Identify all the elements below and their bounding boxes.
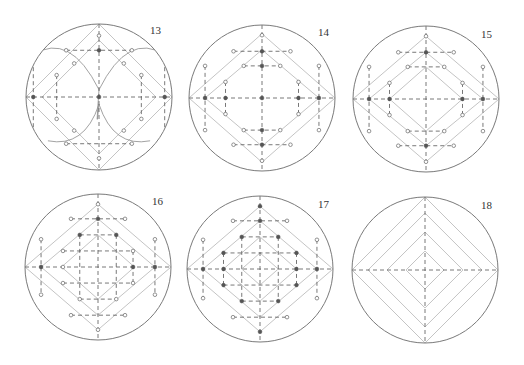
open-dot [388,81,392,85]
filled-dot [201,267,205,271]
open-dot [122,129,126,133]
open-dot [130,48,134,52]
open-dot [96,202,100,206]
open-dot [260,33,264,37]
open-dot [388,113,392,117]
filled-dot [153,265,157,269]
panel-content [189,25,335,171]
open-dot [367,129,371,133]
panel-17 [187,196,333,342]
open-dot [96,328,100,332]
filled-dot [97,48,101,52]
filled-dot [461,97,465,101]
filled-dot [295,251,299,255]
filled-dot [260,143,264,147]
open-dot [278,64,282,68]
filled-dot [163,95,167,99]
filled-dot [295,267,299,271]
open-dot [163,51,167,55]
open-dot [231,219,235,223]
open-dot [424,34,428,38]
open-dot [201,296,205,300]
open-dot [461,113,465,117]
open-dot [114,297,118,301]
open-dot [260,159,264,163]
filled-dot [424,144,428,148]
open-dot [130,142,134,146]
filled-dot [78,233,82,237]
open-dot [232,49,236,53]
filled-dot [39,265,43,269]
open-dot [317,128,321,132]
filled-dot [222,283,226,287]
open-dot [55,73,59,77]
open-dot [442,129,446,133]
open-dot [122,62,126,66]
filled-dot [260,96,264,100]
open-dot [61,281,65,285]
filled-dot [240,235,244,239]
open-dot [224,112,228,116]
panel-number-label: 17 [318,198,329,210]
filled-dot [258,204,262,208]
panel-number-label: 13 [150,24,161,36]
panel-number-label: 18 [481,199,492,211]
open-dot [131,249,135,253]
open-dot [32,51,36,55]
open-dot [481,129,485,133]
open-dot [140,117,144,121]
open-dot [289,49,293,53]
panel-number-label: 16 [152,195,163,207]
filled-dot [224,96,228,100]
open-dot [232,143,236,147]
open-dot [64,142,68,146]
open-dot [153,237,157,241]
filled-dot [317,96,321,100]
open-dot [406,65,410,69]
open-dot [242,128,246,132]
open-dot [55,117,59,121]
open-dot [72,62,76,66]
open-dot [201,238,205,242]
open-dot [315,296,319,300]
filled-dot [297,96,301,100]
open-dot [285,315,289,319]
open-dot [203,64,207,68]
filled-dot [260,128,264,132]
filled-dot [481,97,485,101]
open-dot [140,73,144,77]
open-dot [69,313,73,317]
panel-15 [353,26,499,172]
filled-dot [388,97,392,101]
panel-content [353,26,499,172]
open-dot [242,64,246,68]
panel-number-label: 15 [481,28,492,40]
panel-number-label: 14 [318,26,329,38]
open-dot [61,249,65,253]
filled-dot [114,233,118,237]
open-dot [72,129,76,133]
open-dot [39,237,43,241]
open-dot [289,143,293,147]
open-dot [131,281,135,285]
open-dot [123,217,127,221]
open-dot [406,129,410,133]
filled-dot [222,267,226,271]
open-dot [78,297,82,301]
open-dot [285,219,289,223]
open-dot [278,128,282,132]
panel-content [352,197,498,343]
panel-18 [352,197,498,343]
filled-dot [258,330,262,334]
filled-dot [295,283,299,287]
open-dot [297,80,301,84]
open-dot [203,128,207,132]
open-dot [396,144,400,148]
open-dot [39,293,43,297]
open-dot [69,217,73,221]
panel-16 [25,194,171,340]
curve-arc [33,48,99,90]
filled-dot [276,299,280,303]
filled-dot [276,235,280,239]
filled-dot [96,217,100,221]
